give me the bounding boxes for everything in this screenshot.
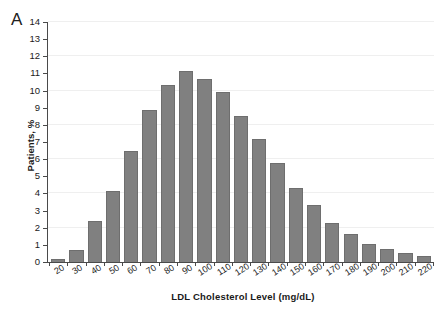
bar-slot	[250, 22, 268, 262]
x-axis-tick-label: 220	[416, 262, 434, 278]
x-label-slot: 190	[359, 265, 377, 289]
y-axis-tick-label: 12	[29, 52, 40, 62]
x-label-slot: 30	[66, 265, 84, 289]
x-axis-title: LDL Cholesterol Level (mg/dL)	[48, 291, 438, 302]
x-label-slot: 150	[286, 265, 304, 289]
plot-area: 01234567891011121314	[47, 22, 434, 263]
bar-slot	[49, 22, 67, 262]
x-label-slot: 170	[322, 265, 340, 289]
bar	[398, 253, 412, 262]
x-label-slot: 70	[139, 265, 157, 289]
x-axis-tick-label: 50	[108, 263, 121, 276]
x-label-slot: 80	[158, 265, 176, 289]
bar-slot	[268, 22, 286, 262]
bar	[325, 223, 339, 262]
y-axis-tick-label: 3	[35, 206, 40, 216]
y-axis-tick-label: 1	[35, 240, 40, 250]
bar	[289, 188, 303, 262]
bar-slot	[195, 22, 213, 262]
y-axis-tick-label: 5	[35, 172, 40, 182]
figure-panel-a: A Patients, % 01234567891011121314 20304…	[0, 0, 446, 318]
y-axis-tick-label: 11	[30, 69, 40, 79]
bar	[124, 151, 138, 262]
bar-series	[48, 22, 434, 262]
panel-letter-label: A	[11, 11, 23, 28]
y-axis-tick-label: 4	[35, 189, 40, 199]
x-label-slot: 40	[85, 265, 103, 289]
x-axis-tick-label: 80	[163, 263, 176, 276]
y-axis-tick-label: 2	[35, 223, 40, 233]
bar-slot	[305, 22, 323, 262]
bar	[106, 191, 120, 262]
x-label-slot: 130	[249, 265, 267, 289]
x-label-slot: 220	[414, 265, 432, 289]
bar	[142, 110, 156, 262]
bar-slot	[86, 22, 104, 262]
y-axis-tick-label: 13	[29, 34, 40, 44]
y-axis-tick-label: 7	[35, 137, 40, 147]
bar-slot	[214, 22, 232, 262]
bar-slot	[140, 22, 158, 262]
x-label-slot: 120	[231, 265, 249, 289]
bar	[197, 79, 211, 262]
bar-slot	[360, 22, 378, 262]
bar	[362, 244, 376, 262]
x-axis-tick-label: 20	[53, 263, 66, 276]
bar	[344, 234, 358, 262]
y-axis-tick-label: 8	[35, 120, 40, 130]
bar	[69, 250, 83, 262]
bar-slot	[67, 22, 85, 262]
y-axis-tick-label: 14	[29, 17, 40, 27]
x-axis-tick-label: 30	[71, 263, 84, 276]
bar	[380, 249, 394, 262]
x-axis-tick-label: 90	[181, 263, 194, 276]
bar	[161, 85, 175, 262]
bar	[270, 163, 284, 262]
y-axis-tick-label: 6	[35, 154, 40, 164]
bar	[307, 205, 321, 262]
bar	[234, 116, 248, 262]
x-axis-tick-label: 40	[89, 263, 102, 276]
bar-slot	[342, 22, 360, 262]
x-axis-tick	[433, 262, 434, 266]
x-label-slot: 60	[121, 265, 139, 289]
x-axis-tick-labels: 2030405060708090100110120130140150160170…	[47, 265, 433, 289]
y-axis-tick-label: 10	[29, 86, 40, 96]
y-axis-tick-label: 9	[35, 103, 40, 113]
bar	[216, 92, 230, 262]
bar	[252, 139, 266, 262]
x-label-slot: 50	[103, 265, 121, 289]
bar	[179, 71, 193, 262]
bar	[88, 221, 102, 262]
x-label-slot: 90	[176, 265, 194, 289]
bar-slot	[159, 22, 177, 262]
x-label-slot: 20	[48, 265, 66, 289]
x-label-slot: 180	[341, 265, 359, 289]
x-label-slot: 140	[267, 265, 285, 289]
bar-slot	[287, 22, 305, 262]
x-label-slot: 100	[194, 265, 212, 289]
x-label-slot: 110	[213, 265, 231, 289]
bar-slot	[415, 22, 433, 262]
bar-slot	[378, 22, 396, 262]
x-axis-tick-label: 70	[144, 263, 157, 276]
bar-slot	[177, 22, 195, 262]
x-axis-tick-label: 60	[126, 263, 139, 276]
bar-slot	[323, 22, 341, 262]
bar-slot	[396, 22, 414, 262]
x-label-slot: 160	[304, 265, 322, 289]
y-axis-tick-label: 0	[35, 257, 40, 267]
bar-slot	[232, 22, 250, 262]
bar-slot	[104, 22, 122, 262]
x-label-slot: 200	[377, 265, 395, 289]
bar-slot	[122, 22, 140, 262]
x-label-slot: 210	[395, 265, 413, 289]
